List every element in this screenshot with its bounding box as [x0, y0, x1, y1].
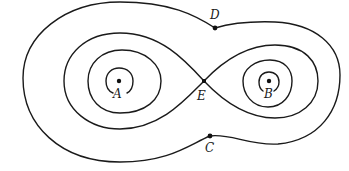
label-B: B [264, 88, 273, 100]
label-D: D [210, 9, 220, 21]
label-C: C [205, 142, 214, 154]
point-E-marker [202, 79, 206, 83]
point-C-marker [208, 134, 213, 139]
point-D-marker [213, 26, 218, 31]
point-A-marker [117, 79, 121, 83]
point-B-marker [267, 79, 271, 83]
contour-diagram: A B C D E [0, 0, 349, 171]
contour-svg [0, 0, 349, 171]
label-A: A [113, 88, 122, 100]
label-E: E [197, 90, 206, 102]
contour-around-A-medium [88, 50, 161, 113]
figure-eight-separatrix [64, 33, 318, 129]
